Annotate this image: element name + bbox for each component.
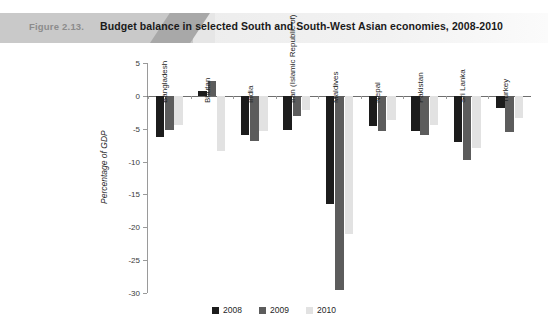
legend-swatch: [212, 307, 219, 314]
legend-swatch: [306, 307, 313, 314]
bar-2010: [345, 96, 354, 234]
y-axis-tick-label: -10: [128, 157, 140, 166]
bar-groups: BangladeshBhutanIndiaIran (Islamic Repub…: [148, 63, 531, 293]
bar-group: Iran (Islamic Republic of): [283, 63, 310, 293]
x-axis-category-label: Nepal: [373, 82, 382, 103]
x-axis-tick-mark: [318, 96, 319, 99]
legend-label: 2010: [317, 305, 336, 315]
y-axis-tick-label: -15: [128, 190, 140, 199]
bar-2010: [387, 96, 396, 120]
x-axis-category-label: India: [246, 85, 255, 102]
x-axis-category-label: Sri Lanka: [458, 69, 467, 103]
x-axis-category-label: Bangladesh: [160, 61, 169, 103]
bar-2010: [515, 96, 524, 118]
bar-2010: [174, 96, 183, 126]
legend-item[interactable]: 2008: [212, 305, 242, 315]
bar-2010: [217, 96, 226, 151]
y-axis-tick-label: -5: [133, 124, 140, 133]
x-axis-tick-mark: [361, 96, 362, 99]
legend-item[interactable]: 2009: [259, 305, 289, 315]
bar-group: Sri Lanka: [454, 63, 481, 293]
bar-2010: [472, 96, 481, 149]
x-axis-tick-mark: [446, 96, 447, 99]
bar-group: Nepal: [369, 63, 396, 293]
y-axis-tick-labels: 50-5-10-15-20-25-30: [118, 50, 140, 293]
bar-group: Turkey: [496, 63, 523, 293]
bar-group: Pakistan: [411, 63, 438, 293]
bar-2010: [430, 96, 439, 125]
x-axis-category-label: Turkey: [501, 79, 510, 103]
bar-2009: [463, 96, 472, 160]
chart-legend: 200820092010: [0, 305, 548, 315]
chart-plot-area: Percentage of GDP 50-5-10-15-20-25-30 Ba…: [0, 50, 548, 331]
x-axis-tick-mark: [403, 96, 404, 99]
y-axis-tick-label: -20: [128, 223, 140, 232]
bar-2009: [335, 96, 344, 290]
y-axis-tick-label: -30: [128, 289, 140, 298]
bar-2008: [326, 96, 335, 204]
x-axis-category-label: Bhutan: [203, 77, 212, 102]
y-axis-title: Percentage of GDP: [99, 130, 109, 204]
x-axis-tick-mark: [276, 96, 277, 99]
x-axis-category-label: Pakistan: [416, 72, 425, 103]
bar-2010: [259, 96, 268, 131]
x-axis-tick-mark: [233, 96, 234, 99]
x-axis-tick-mark: [191, 96, 192, 99]
legend-item[interactable]: 2010: [306, 305, 336, 315]
x-axis-tick-mark: [148, 96, 149, 99]
legend-swatch: [259, 307, 266, 314]
figure-banner: Figure 2.13. Budget balance in selected …: [0, 13, 548, 43]
y-axis-tick-label: 5: [136, 59, 140, 68]
bar-group: India: [241, 63, 268, 293]
bar-group: Maldives: [326, 63, 353, 293]
x-axis-category-label: Iran (Islamic Republic of): [288, 14, 297, 102]
legend-label: 2008: [223, 305, 242, 315]
legend-label: 2009: [270, 305, 289, 315]
y-axis-tick-label: -25: [128, 256, 140, 265]
x-axis-category-label: Maldives: [331, 71, 340, 103]
y-axis-tick-label: 0: [136, 91, 140, 100]
figure-number: Figure 2.13.: [29, 21, 84, 32]
figure-page: Figure 2.13. Budget balance in selected …: [0, 0, 548, 331]
bar-2010: [302, 96, 311, 110]
x-axis-tick-mark: [488, 96, 489, 99]
figure-title: Budget balance in selected South and Sou…: [100, 20, 503, 32]
bar-group: Bhutan: [198, 63, 225, 293]
y-axis-tick-mark: [143, 293, 147, 294]
bar-group: Bangladesh: [156, 63, 183, 293]
